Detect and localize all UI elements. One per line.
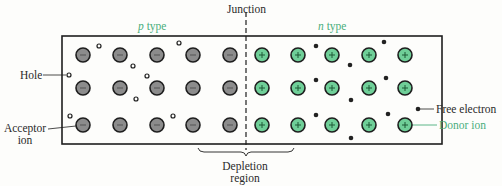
acceptor-ion-icon: [76, 81, 90, 95]
donor-ion-icon: [255, 81, 269, 95]
acceptor-ion-icon: [186, 118, 200, 132]
electron-icon: [314, 113, 319, 118]
donor-ion-icon: [291, 118, 305, 132]
electron-icon: [314, 44, 319, 49]
donor-ion-icon: [398, 118, 412, 132]
donor-ion-icon: [362, 81, 376, 95]
acceptor-label-line2: ion: [3, 134, 47, 146]
acceptor-ion-label: Acceptorion: [3, 122, 47, 146]
hole-label: Hole: [20, 69, 42, 81]
donor-ion-label: Donor ion: [439, 119, 486, 131]
donor-ion-icon: [362, 48, 376, 62]
hole-icon: [131, 64, 135, 68]
electron-icon: [314, 78, 319, 83]
n-type-label: n type: [318, 20, 346, 32]
donor-ion-icon: [325, 81, 339, 95]
acceptor-ion-icon: [223, 81, 237, 95]
donor-ion-icon: [255, 118, 269, 132]
acceptor-ion-icon: [150, 48, 164, 62]
free-electron-label: Free electron: [436, 103, 496, 115]
donor-ion-icon: [255, 48, 269, 62]
acceptor-ion-icon: [223, 118, 237, 132]
acceptor-label-line1: Acceptor: [3, 122, 47, 134]
acceptor-ion-icon: [113, 118, 127, 132]
donor-ion-icon: [291, 48, 305, 62]
acceptor-ion-icon: [113, 81, 127, 95]
acceptor-ion-icon: [76, 118, 90, 132]
acceptor-ion-icon: [150, 81, 164, 95]
donor-ion-icon: [291, 81, 305, 95]
junction-label: Junction: [227, 3, 266, 15]
donor-ion-icon: [325, 48, 339, 62]
pn-junction-diagram: [0, 0, 502, 186]
acceptor-ion-icon: [76, 48, 90, 62]
acceptor-ion-icon: [186, 48, 200, 62]
hole-icon: [97, 44, 101, 48]
acceptor-ion-icon: [223, 48, 237, 62]
depletion-label-line1: Depletion: [216, 160, 274, 172]
hole-icon: [171, 114, 175, 118]
donor-ions: [255, 48, 412, 132]
acceptor-ion-icon: [113, 48, 127, 62]
acceptor-ion-icon: [186, 81, 200, 95]
electron-icon: [348, 63, 353, 68]
electron-icon: [416, 107, 421, 112]
hole-icon: [68, 114, 72, 118]
donor-ion-icon: [362, 118, 376, 132]
depletion-label-line2: region: [216, 172, 274, 184]
donor-ion-icon: [398, 81, 412, 95]
n-type-word: type: [324, 20, 347, 32]
donor-ion-icon: [325, 118, 339, 132]
depletion-region-label: Depletionregion: [216, 160, 274, 184]
acceptor-ions: [76, 48, 237, 132]
electron-icon: [384, 76, 389, 81]
electron-icon: [386, 112, 391, 117]
acceptor-ion-icon: [150, 118, 164, 132]
hole-icon: [177, 41, 181, 45]
p-type-label: p type: [138, 20, 166, 32]
electron-icon: [349, 98, 354, 103]
electron-icon: [382, 40, 387, 45]
hole-icon: [67, 73, 71, 77]
p-type-word: type: [144, 20, 167, 32]
donor-ion-icon: [398, 48, 412, 62]
hole-icon: [134, 97, 138, 101]
electron-icon: [349, 136, 354, 141]
hole-icon: [145, 74, 149, 78]
